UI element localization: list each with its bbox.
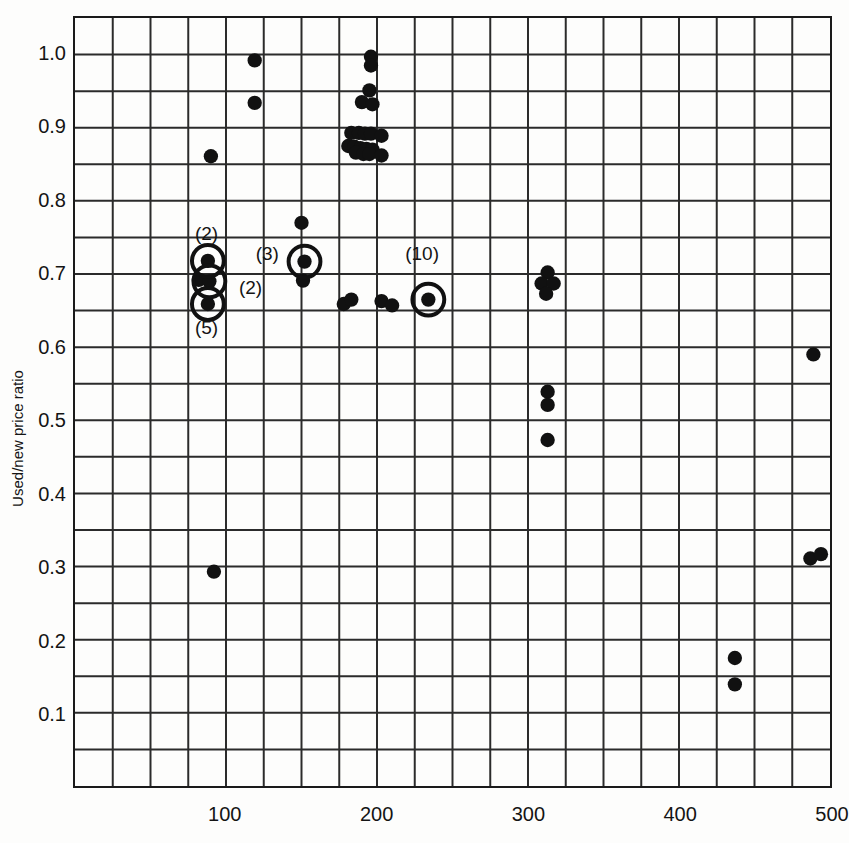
data-point <box>362 147 376 161</box>
x-axis-tick-label: 500 <box>815 804 848 824</box>
data-point <box>421 292 435 306</box>
data-point <box>374 129 388 143</box>
multiplicity-annotation: (2) <box>195 223 218 242</box>
multiplicity-annotation: (2) <box>239 278 262 297</box>
data-point <box>248 53 262 67</box>
data-point <box>207 565 221 579</box>
data-point <box>374 148 388 162</box>
plot-area <box>73 16 832 788</box>
data-point <box>539 287 553 301</box>
data-point <box>540 385 554 399</box>
data-point <box>204 149 218 163</box>
data-point <box>385 298 399 312</box>
data-point <box>365 97 379 111</box>
scatter-plot-figure: Used/new price ratio 1.00.90.80.70.60.50… <box>0 0 849 843</box>
data-point <box>806 347 820 361</box>
data-point <box>814 547 828 561</box>
x-axis-tick-label: 300 <box>512 804 545 824</box>
x-axis-tick-label: 400 <box>664 804 697 824</box>
data-point <box>728 677 742 691</box>
data-point <box>248 96 262 110</box>
data-point <box>344 292 358 306</box>
data-point <box>540 433 554 447</box>
x-axis-tick-label: 100 <box>208 804 241 824</box>
multiplicity-annotation: (10) <box>405 244 439 263</box>
data-point <box>364 58 378 72</box>
data-point <box>297 254 311 268</box>
x-axis-tick-label: 200 <box>360 804 393 824</box>
data-point <box>540 398 554 412</box>
data-point <box>294 216 308 230</box>
multiplicity-annotation: (3) <box>256 244 279 263</box>
data-points-layer <box>75 18 830 786</box>
data-point <box>728 651 742 665</box>
multiplicity-annotation: (5) <box>195 318 218 337</box>
